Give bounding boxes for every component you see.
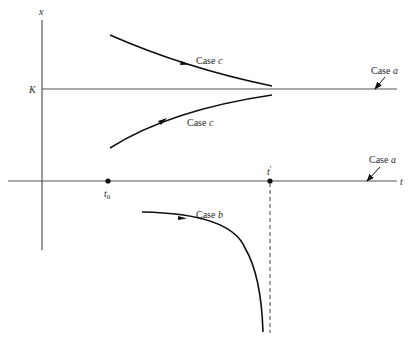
case-b-curve	[142, 212, 263, 332]
tprime-label: t′	[267, 165, 272, 177]
case-b-arrow-icon	[178, 216, 187, 220]
case-c-upper-curve	[110, 35, 272, 86]
tprime-point	[267, 178, 272, 183]
x-axis-label: x	[38, 6, 44, 17]
t0-label: t0	[104, 188, 111, 201]
case-c-upper-arrow-icon	[180, 61, 190, 65]
case-a-lower-label: Case a	[369, 154, 396, 165]
phase-diagram: x K t t0 t′ Case c Case c Case a Case a …	[0, 0, 409, 340]
t-axis-label: t	[400, 176, 403, 187]
k-label: K	[28, 84, 37, 95]
case-c-lower-label: Case c	[187, 117, 214, 128]
case-a-upper-pointer	[375, 77, 385, 89]
case-b-label: Case b	[196, 209, 223, 220]
case-c-upper-label: Case c	[196, 55, 223, 66]
case-a-upper-label: Case a	[371, 65, 398, 76]
diagram-canvas: x K t t0 t′ Case c Case c Case a Case a …	[0, 0, 409, 340]
t0-point	[105, 178, 110, 183]
case-a-lower-pointer	[367, 167, 380, 181]
